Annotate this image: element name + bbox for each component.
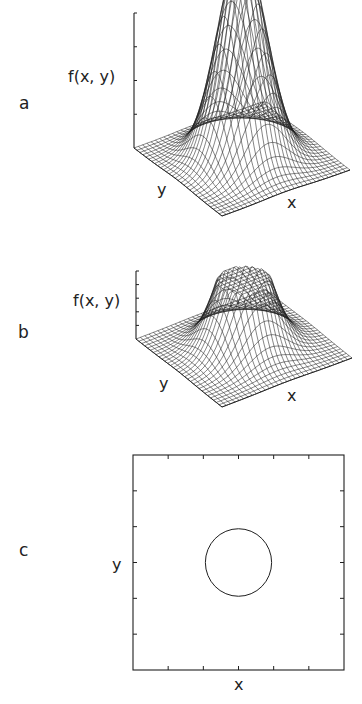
x-axis-label-c: x bbox=[234, 675, 243, 694]
contour-plot-c bbox=[0, 0, 362, 704]
panel-c: c y x bbox=[0, 0, 362, 704]
y-axis-label-c: y bbox=[112, 555, 121, 574]
